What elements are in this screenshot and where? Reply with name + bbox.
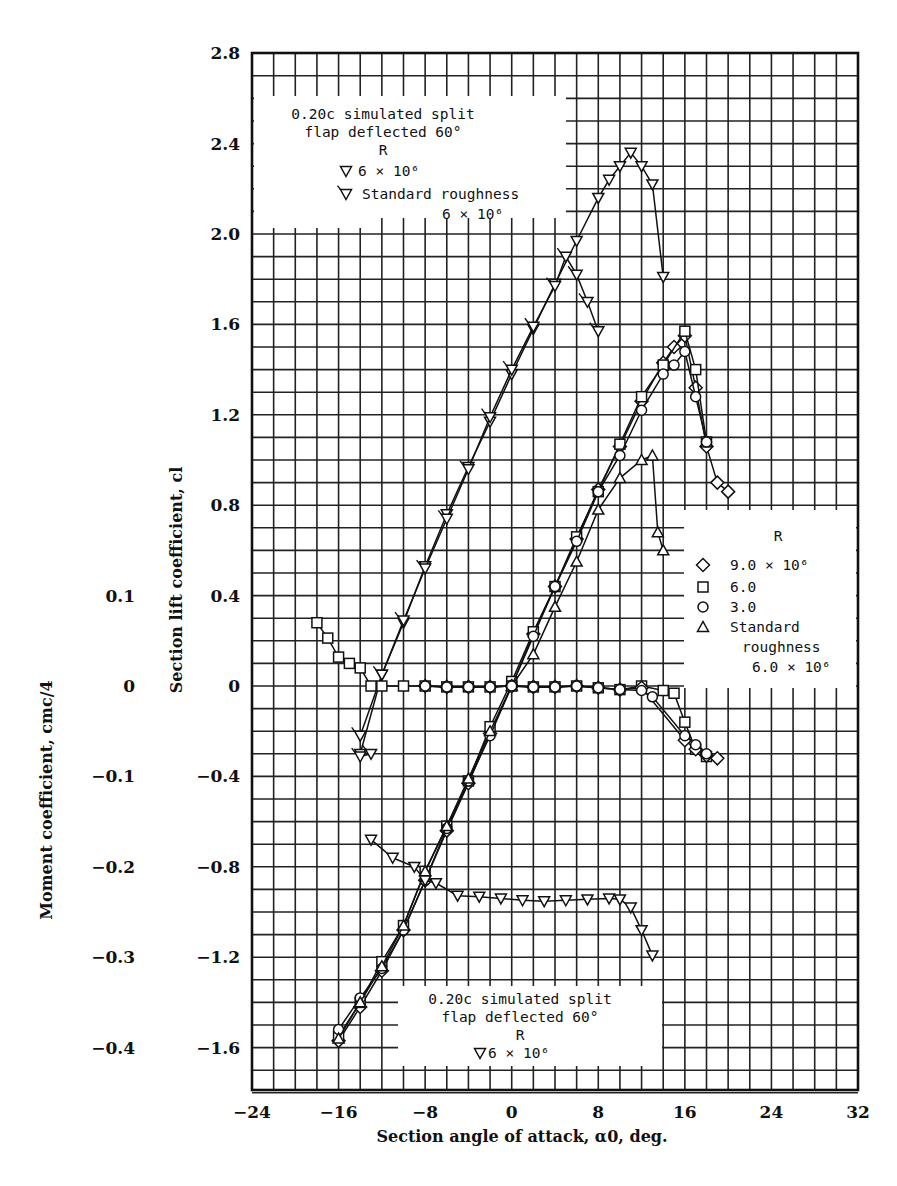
x-tick-label: −16: [320, 1102, 358, 1122]
x-tick-label: −8: [412, 1102, 438, 1122]
y-tick-label: 0: [228, 676, 240, 696]
triangle-up-marker: [528, 649, 539, 659]
legend-title: 0.20c simulated split: [428, 991, 611, 1007]
circle-marker: [463, 682, 473, 692]
flagged-triangle-marker: [550, 282, 561, 292]
legend-entry-label: 6.0: [730, 579, 756, 595]
flag-tick: [557, 248, 560, 252]
flag-tick: [395, 612, 398, 616]
circle-marker: [572, 536, 582, 546]
square-marker: [680, 326, 690, 336]
square-marker: [344, 658, 354, 668]
triangle-down-marker: [593, 193, 604, 203]
square-marker: [366, 681, 376, 691]
y2-tick-label: 0: [123, 676, 135, 696]
y-tick-label: 0.4: [210, 586, 240, 606]
triangle-down-marker: [647, 951, 658, 961]
circle-marker: [702, 749, 712, 759]
legend-entry-label: 3.0: [730, 599, 756, 615]
y-tick-label: −1.6: [196, 1038, 240, 1058]
y2-axis-label: Moment coefficient, cmc/4: [37, 680, 56, 919]
legend-entry-label: Standard roughness: [362, 186, 519, 202]
legend-title: flap deflected 60°: [304, 124, 461, 140]
circle-marker: [680, 731, 690, 741]
legend-entry-label: 6 × 10⁶: [358, 163, 419, 179]
legend-entry-label: 9.0 × 10⁶: [730, 557, 809, 573]
circle-marker: [637, 405, 647, 415]
square-marker: [637, 392, 647, 402]
y2-tick-label: −0.2: [91, 857, 135, 877]
y-tick-label: 2.8: [210, 43, 240, 63]
triangle-down-marker: [614, 895, 625, 905]
flag-tick: [568, 266, 571, 270]
circle-marker: [680, 347, 690, 357]
square-marker: [658, 686, 668, 696]
circle-marker: [637, 686, 647, 696]
square-marker: [323, 633, 333, 643]
triangle-down-marker: [658, 273, 669, 283]
triangle-up-marker: [647, 450, 658, 460]
circle-marker: [658, 369, 668, 379]
circle-marker: [593, 487, 603, 497]
x-tick-label: 0: [506, 1102, 518, 1122]
flag-tick: [579, 293, 582, 297]
y2-tick-label: 0.1: [105, 586, 135, 606]
y2-tick-label: −0.1: [91, 766, 135, 786]
legend-title: R: [379, 142, 388, 158]
legend-entry-label: roughness: [742, 639, 821, 655]
circle-marker: [647, 692, 657, 702]
circle-marker: [442, 682, 452, 692]
flagged-triangle-marker: [463, 465, 474, 475]
triangle-down-marker: [387, 853, 398, 863]
circle-marker: [615, 685, 625, 695]
series: [334, 347, 712, 1035]
square-marker: [312, 618, 322, 628]
legend-title: R: [516, 1027, 525, 1043]
triangle-down-marker: [604, 175, 615, 185]
y2-tick-label: −0.4: [91, 1038, 135, 1058]
x-axis-label: Section angle of attack, α0, deg.: [376, 1127, 667, 1146]
circle-marker: [572, 681, 582, 691]
triangle-down-marker: [571, 236, 582, 246]
circle-marker: [669, 360, 679, 370]
circle-marker: [593, 683, 603, 693]
series-line: [339, 455, 664, 1038]
circle-marker: [550, 682, 560, 692]
legend-entry-label: Standard: [730, 619, 800, 635]
triangle-up-marker: [571, 556, 582, 566]
x-tick-label: 24: [760, 1102, 784, 1122]
y-tick-label: 2.4: [210, 134, 240, 154]
legend-entry-label: 6.0 × 10⁶: [752, 659, 831, 675]
x-tick-label: 8: [592, 1102, 604, 1122]
legend-title: flap deflected 60°: [441, 1009, 598, 1025]
square-marker: [377, 681, 387, 691]
square-marker: [334, 652, 344, 662]
series: [352, 248, 604, 741]
square-marker: [669, 688, 679, 698]
y-tick-label: 0.8: [210, 495, 240, 515]
square-marker: [698, 582, 708, 592]
circle-marker: [698, 602, 708, 612]
y-tick-label: 1.6: [210, 314, 240, 334]
flag-tick: [438, 510, 441, 514]
y-axis-label: Section lift coefficient, cl: [167, 467, 186, 694]
circle-marker: [691, 392, 701, 402]
y-tick-label: −1.2: [196, 947, 240, 967]
square-marker: [399, 681, 409, 691]
square-marker: [355, 663, 365, 673]
circle-marker: [691, 740, 701, 750]
y-tick-label: 2.0: [210, 224, 240, 244]
x-tick-label: 32: [846, 1102, 870, 1122]
flag-tick: [525, 318, 528, 322]
circle-marker: [550, 582, 560, 592]
legend-top-panel-ext: [254, 218, 372, 228]
triangle-down-marker: [430, 879, 441, 889]
x-tick-label: −24: [233, 1102, 271, 1122]
triangle-up-marker: [550, 601, 561, 611]
legend-title: 0.20c simulated split: [291, 106, 474, 122]
series: [333, 450, 669, 1043]
circle-marker: [528, 682, 538, 692]
flag-tick: [482, 409, 485, 413]
circle-marker: [702, 437, 712, 447]
legend-entry-label: 6 × 10⁶: [442, 206, 503, 222]
